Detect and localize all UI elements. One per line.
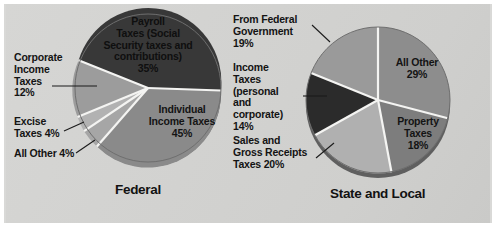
label-federal-excise-taxes: Excise Taxes 4%: [14, 116, 60, 140]
label-federal-payroll-taxes: Payroll Taxes (Social Security taxes and…: [82, 16, 214, 75]
leader-excise: [64, 122, 84, 131]
label-state-income-taxes: Income Taxes (personal and corporate) 14…: [233, 62, 283, 133]
leader-all-other: [76, 140, 95, 153]
label-state-sales-gross-receipts-taxes: Sales and Gross Receipts Taxes 20%: [233, 135, 307, 170]
label-state-property-taxes: Property Taxes 18%: [382, 116, 454, 151]
chart-title-state-and-local: State and Local: [330, 186, 425, 201]
pie-state-local: [306, 27, 450, 178]
leader-from-federal: [312, 25, 330, 42]
label-state-all-other: All Other 29%: [378, 57, 456, 81]
chart-title-federal: Federal: [115, 182, 161, 197]
label-federal-corporate-income-taxes: Corporate Income Taxes 12%: [14, 52, 62, 99]
label-federal-individual-income-taxes: Individual Income Taxes 45%: [128, 104, 236, 139]
figure-canvas: Corporate Income Taxes 12% Excise Taxes …: [0, 0, 496, 227]
label-federal-all-other: All Other 4%: [14, 148, 74, 160]
label-state-from-federal-government: From Federal Government 19%: [233, 14, 297, 49]
